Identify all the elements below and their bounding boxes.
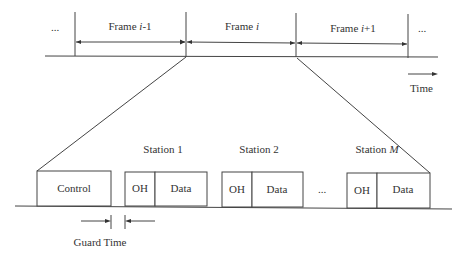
station-m-data-label: Data xyxy=(393,183,414,195)
station-2-data-label: Data xyxy=(267,183,288,195)
station-1-label: Station 1 xyxy=(143,143,182,155)
top-time-axis xyxy=(45,56,438,57)
control-label: Control xyxy=(57,182,91,194)
ellipsis-right: ... xyxy=(418,22,427,34)
station-2-oh-label: OH xyxy=(229,183,245,195)
arrowhead-icon xyxy=(125,219,131,223)
expansion-line-right xyxy=(297,58,430,173)
arrowhead-icon xyxy=(76,40,81,44)
guard-time-label: Guard Time xyxy=(74,236,127,248)
frame-detail: Control Station 1 OH Data Station 2 OH D… xyxy=(15,143,452,248)
ellipsis-mid: ... xyxy=(318,183,327,195)
time-label: Time xyxy=(410,82,433,94)
frame-label-prev: Frame i-1 xyxy=(108,20,151,32)
frame-span-arrow xyxy=(297,43,407,44)
arrowhead-icon xyxy=(297,41,302,45)
frame-label-next: Frame i+1 xyxy=(330,22,376,34)
station-m-label: Station M xyxy=(355,143,399,155)
arrowhead-icon xyxy=(187,40,192,44)
time-arrowhead-icon xyxy=(432,72,438,76)
station-m-oh-label: OH xyxy=(354,184,370,196)
station-1-data-label: Data xyxy=(171,182,192,194)
arrowhead-icon xyxy=(105,219,111,223)
station-2-label: Station 2 xyxy=(239,143,278,155)
ellipsis-left: ... xyxy=(51,21,60,33)
frame-label-current: Frame i xyxy=(225,20,259,32)
arrowhead-icon xyxy=(402,42,407,46)
arrowhead-icon xyxy=(180,40,185,44)
top-timeline: ... ... Frame i-1 Frame i Frame i+1 Time xyxy=(45,12,438,94)
frame-span-arrow xyxy=(187,42,295,43)
arrowhead-icon xyxy=(290,41,295,45)
station-1-oh-label: OH xyxy=(132,182,148,194)
tdma-frame-diagram: ... ... Frame i-1 Frame i Frame i+1 Time… xyxy=(0,0,464,260)
